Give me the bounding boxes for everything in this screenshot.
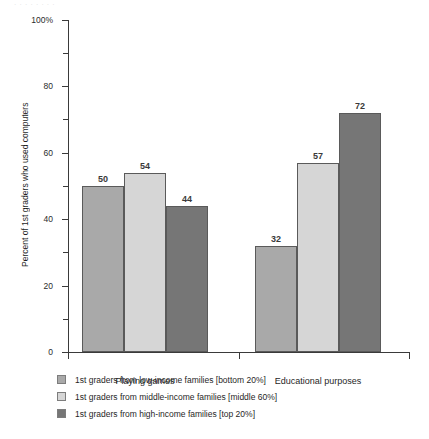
bar-playing-games-middle-income[interactable]: 54 xyxy=(124,173,166,352)
y-tick-label-20: 20 xyxy=(44,281,53,291)
y-tick-80: 80 xyxy=(62,86,68,87)
bar-educational-purposes-high-income[interactable]: 72 xyxy=(339,113,381,352)
legend-item-low-income[interactable]: 1st graders from low-income families [bo… xyxy=(57,371,397,388)
scan-artifact-strip: · · · · · · · · xyxy=(0,0,429,9)
bar-educational-purposes-middle-income[interactable]: 57 xyxy=(297,163,339,352)
legend-label-high-income: 1st graders from high-income families [t… xyxy=(75,409,255,419)
bar-playing-games-low-income[interactable]: 50 xyxy=(82,186,124,352)
y-tick-70 xyxy=(63,119,68,120)
y-tick-20: 20 xyxy=(62,286,68,287)
y-tick-label-40: 40 xyxy=(44,214,53,224)
y-tick-50 xyxy=(63,186,68,187)
y-tick-label-80: 80 xyxy=(44,81,53,91)
legend-label-low-income: 1st graders from low-income families [bo… xyxy=(75,375,266,385)
y-tick-100: 100% xyxy=(62,20,68,21)
bar-value-playing-games-high-income: 44 xyxy=(182,194,192,204)
bar-chart-figure: · · · · · · · · Percent of 1st graders w… xyxy=(0,0,429,439)
legend-label-middle-income: 1st graders from middle-income families … xyxy=(75,392,277,402)
x-tick-group-divider xyxy=(239,352,240,359)
chart-legend: 1st graders from low-income families [bo… xyxy=(57,371,397,422)
y-tick-label-100: 100% xyxy=(31,15,53,25)
legend-swatch-middle-income xyxy=(57,392,66,401)
y-tick-label-60: 60 xyxy=(44,148,53,158)
x-tick-end xyxy=(409,352,410,359)
legend-swatch-high-income xyxy=(57,409,66,418)
bar-value-playing-games-low-income: 50 xyxy=(98,174,108,184)
y-tick-60: 60 xyxy=(62,153,68,154)
y-tick-30 xyxy=(63,252,68,253)
plot-area: 100% 80 60 40 20 0 50 54 xyxy=(68,20,410,352)
bar-playing-games-high-income[interactable]: 44 xyxy=(166,206,208,352)
bar-value-educational-purposes-high-income: 72 xyxy=(355,101,365,111)
legend-item-high-income[interactable]: 1st graders from high-income families [t… xyxy=(57,405,397,422)
legend-swatch-low-income xyxy=(57,375,66,384)
y-tick-10 xyxy=(63,319,68,320)
y-tick-label-0: 0 xyxy=(48,347,53,357)
legend-item-middle-income[interactable]: 1st graders from middle-income families … xyxy=(57,388,397,405)
bar-value-playing-games-middle-income: 54 xyxy=(140,161,150,171)
y-tick-40: 40 xyxy=(62,219,68,220)
y-axis-line xyxy=(68,20,69,352)
y-axis-title: Percent of 1st graders who used computer… xyxy=(18,70,32,300)
bar-value-educational-purposes-middle-income: 57 xyxy=(313,151,323,161)
y-tick-90 xyxy=(63,53,68,54)
bar-value-educational-purposes-low-income: 32 xyxy=(271,234,281,244)
x-tick-start xyxy=(68,352,69,359)
bar-educational-purposes-low-income[interactable]: 32 xyxy=(255,246,297,352)
